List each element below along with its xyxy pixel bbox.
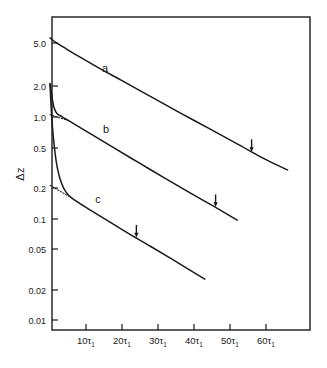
arrow-marker-b	[214, 194, 218, 207]
x-tick-label: 60τ1	[257, 335, 275, 348]
arrow-marker-a	[250, 139, 254, 152]
y-tick-label: 2.0	[33, 82, 46, 92]
x-tick-label: 50τ1	[221, 335, 239, 348]
arrow-marker-c	[134, 225, 138, 238]
series-label-b: b	[103, 123, 109, 135]
x-tick-label: 20τ1	[113, 335, 131, 348]
y-tick-label: 0.1	[33, 215, 46, 225]
semilog-plot: 5.02.01.00.50.20.10.050.020.01 10τ120τ13…	[0, 0, 327, 368]
x-tick-label: 10τ1	[77, 335, 95, 348]
series-label-a: a	[102, 62, 109, 74]
series-label-c: c	[95, 193, 101, 205]
y-tick-label: 0.2	[33, 184, 46, 194]
x-tick-label: 40τ1	[185, 335, 203, 348]
y-tick-label: 1.0	[33, 113, 46, 123]
y-tick-label: 5.0	[33, 39, 46, 49]
x-tick-label: 30τ1	[149, 335, 167, 348]
series-labels: abc	[95, 62, 109, 205]
x-axis-ticks: 10τ120τ130τ140τ150τ160τ1	[77, 324, 275, 348]
y-tick-label: 0.02	[28, 286, 46, 296]
y-tick-label: 0.05	[28, 245, 46, 255]
arrow-markers	[134, 139, 253, 237]
figure-container: 5.02.01.00.50.20.10.050.020.01 10τ120τ13…	[0, 0, 327, 368]
y-tick-label: 0.01	[28, 316, 46, 326]
y-axis-ticks: 5.02.01.00.50.20.10.050.020.01	[28, 39, 58, 326]
y-axis-title: Δz	[14, 144, 26, 204]
data-curves	[50, 38, 288, 279]
curve-b	[50, 84, 237, 220]
y-tick-label: 0.5	[33, 144, 46, 154]
